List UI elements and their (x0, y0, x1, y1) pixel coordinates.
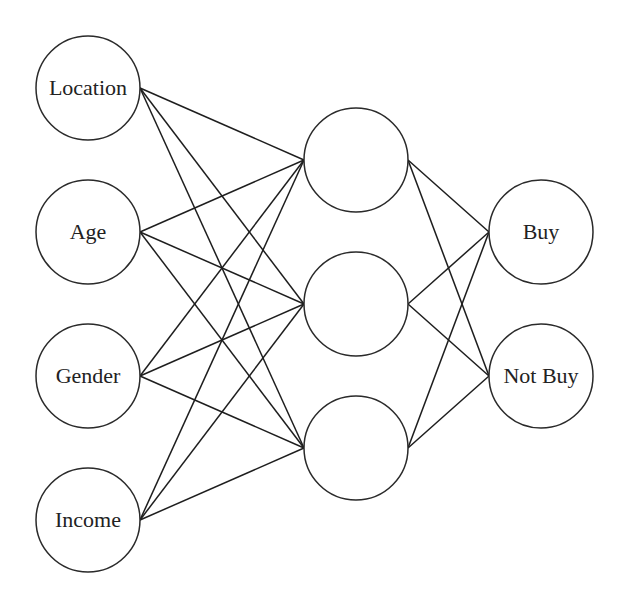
edge-input-1-hidden-0 (140, 160, 304, 232)
nodes: LocationAgeGenderIncomeBuyNot Buy (36, 36, 593, 572)
hidden-node-circle (304, 252, 408, 356)
input-node-0: Location (36, 36, 140, 140)
edge-hidden-0-output-0 (408, 160, 489, 232)
edge-hidden-1-output-0 (408, 232, 489, 304)
hidden-node-circle (304, 396, 408, 500)
input-node-3: Income (36, 468, 140, 572)
edge-input-2-hidden-0 (140, 160, 304, 376)
input-node-label: Income (55, 507, 121, 532)
hidden-node-0 (304, 108, 408, 212)
output-node-1: Not Buy (489, 324, 593, 428)
edge-hidden-2-output-0 (408, 232, 489, 448)
input-node-label: Gender (56, 363, 121, 388)
edge-input-3-hidden-1 (140, 304, 304, 520)
hidden-node-circle (304, 108, 408, 212)
edge-hidden-2-output-1 (408, 376, 489, 448)
edge-input-3-hidden-2 (140, 448, 304, 520)
output-node-0: Buy (489, 180, 593, 284)
input-node-label: Age (70, 219, 107, 244)
input-node-label: Location (49, 75, 127, 100)
edge-input-0-hidden-0 (140, 88, 304, 160)
output-node-label: Not Buy (503, 363, 578, 388)
output-node-label: Buy (523, 219, 560, 244)
edge-input-3-hidden-0 (140, 160, 304, 520)
input-node-2: Gender (36, 324, 140, 428)
hidden-node-1 (304, 252, 408, 356)
input-node-1: Age (36, 180, 140, 284)
hidden-node-2 (304, 396, 408, 500)
neural-network-diagram: LocationAgeGenderIncomeBuyNot Buy (0, 0, 627, 602)
